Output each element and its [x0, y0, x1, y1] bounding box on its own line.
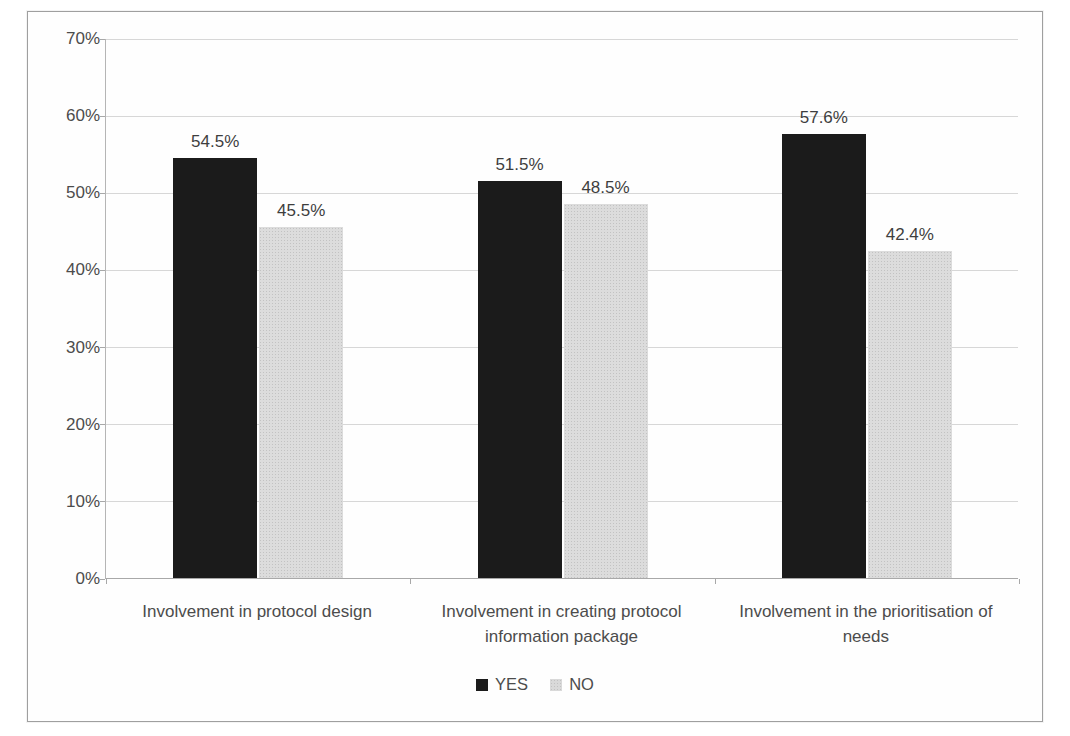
y-axis-label-60%: 60%: [60, 106, 100, 126]
x-axis-tick: [715, 579, 716, 584]
legend: YESNO: [28, 675, 1042, 694]
chart-frame: 54.5%45.5%51.5%48.5%57.6%42.4% 0%10%20%3…: [27, 11, 1043, 722]
legend-label-no: NO: [569, 675, 594, 694]
y-axis-label-40%: 40%: [60, 260, 100, 280]
bar-no-group-1: [259, 227, 343, 578]
y-axis-label-50%: 50%: [60, 183, 100, 203]
bar-yes-group-1: [173, 158, 257, 578]
value-label-yes-group-2: 51.5%: [495, 155, 543, 175]
x-axis-tick: [410, 579, 411, 584]
y-axis-label-20%: 20%: [60, 415, 100, 435]
value-label-no-group-3: 42.4%: [886, 225, 934, 245]
legend-item-yes: YES: [476, 675, 528, 694]
category-label-2: Involvement in creating protocol informa…: [414, 600, 710, 649]
legend-swatch-yes-icon: [476, 679, 488, 691]
y-axis-label-10%: 10%: [60, 492, 100, 512]
x-axis-tick: [1019, 579, 1020, 584]
y-axis-tick: [100, 347, 105, 348]
legend-item-no: NO: [550, 675, 594, 694]
bar-yes-group-3: [782, 134, 866, 578]
y-axis-tick: [100, 424, 105, 425]
y-axis-label-0%: 0%: [60, 569, 100, 589]
bar-no-group-2: [564, 204, 648, 578]
y-axis-tick: [100, 116, 105, 117]
value-label-no-group-1: 45.5%: [277, 201, 325, 221]
y-axis-label-70%: 70%: [60, 29, 100, 49]
value-label-yes-group-3: 57.6%: [800, 108, 848, 128]
category-label-3: Involvement in the prioritisation of nee…: [718, 600, 1014, 649]
legend-label-yes: YES: [495, 675, 528, 694]
legend-swatch-no-icon: [550, 679, 562, 691]
y-axis-tick: [100, 270, 105, 271]
bar-no-group-3: [868, 251, 952, 578]
gridline-70: [106, 39, 1018, 40]
value-label-yes-group-1: 54.5%: [191, 132, 239, 152]
gridline-60: [106, 116, 1018, 117]
y-axis-label-30%: 30%: [60, 338, 100, 358]
y-axis-tick: [100, 193, 105, 194]
y-axis-tick: [100, 579, 105, 580]
y-axis-tick: [100, 501, 105, 502]
value-label-no-group-2: 48.5%: [581, 178, 629, 198]
y-axis-tick: [100, 39, 105, 40]
x-axis-tick: [106, 579, 107, 584]
bar-yes-group-2: [478, 181, 562, 578]
category-label-1: Involvement in protocol design: [109, 600, 405, 625]
plot-area: 54.5%45.5%51.5%48.5%57.6%42.4%: [105, 39, 1018, 579]
